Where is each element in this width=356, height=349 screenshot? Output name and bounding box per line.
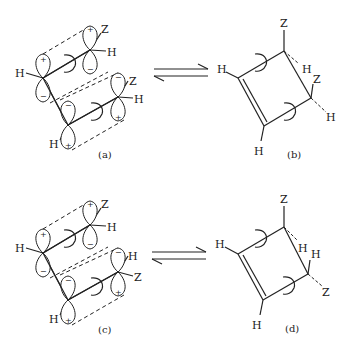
bond-z [311, 84, 313, 98]
panel-caption: (c) [98, 324, 112, 335]
diagram-canvas: + − + − − + − + H Z H Z H H (a) [0, 0, 356, 349]
sign: + [65, 316, 72, 325]
sign: + [115, 113, 122, 122]
atom-label: H [326, 111, 336, 124]
sign: + [40, 55, 47, 64]
atom-label: H [254, 145, 264, 158]
sign: + [115, 288, 122, 297]
atom-label: H [15, 67, 25, 80]
atom-label: H [128, 250, 138, 263]
sign: + [40, 230, 47, 239]
atom-label: Z [129, 75, 137, 88]
atom-label: H [302, 63, 312, 76]
sign: + [87, 25, 94, 34]
atom-label: H [217, 63, 227, 76]
sign: − [115, 248, 122, 257]
sign: + [87, 200, 94, 209]
bond-h-dashed [311, 98, 326, 112]
double-bond [238, 78, 264, 126]
panel-caption: (b) [287, 149, 301, 160]
sign: + [65, 141, 72, 150]
atom-label: Z [280, 193, 288, 206]
atom-label: H [15, 242, 25, 255]
atom-label: H [107, 46, 117, 59]
bond-h [261, 126, 264, 141]
overlap-dash [60, 73, 118, 100]
atom-label: Z [101, 23, 109, 36]
atom-label: H [134, 93, 144, 106]
bond [264, 98, 311, 126]
overlap-dash [50, 72, 108, 103]
overlap-dash [43, 26, 90, 54]
sign: − [87, 240, 94, 249]
equilibrium-arrow-icon [154, 64, 208, 81]
panel-b: H H Z H Z H (b) [217, 17, 336, 160]
atom-label: H [252, 319, 262, 332]
double-bond [243, 79, 267, 122]
sign: − [65, 276, 72, 285]
atom-label: Z [280, 17, 288, 30]
atom-label: H [49, 313, 59, 326]
atom-label: Z [313, 73, 321, 86]
panel-a: + − + − − + − + H Z H Z H H (a) [15, 23, 144, 160]
equilibrium-arrow-icon [152, 247, 206, 264]
atom-label: H [311, 248, 321, 261]
atom-label: Z [134, 271, 142, 284]
bond-h [118, 97, 133, 98]
panel-d: H H Z H H Z (d) [215, 193, 330, 334]
atom-label: H [215, 238, 225, 251]
atom-label: Z [322, 286, 330, 299]
sign: − [65, 101, 72, 110]
panel-caption: (d) [285, 323, 299, 334]
bond-h-dashed [284, 51, 298, 63]
rotation-arrow-icon [284, 103, 296, 120]
overlap-dash [72, 120, 124, 150]
atom-label: Z [101, 198, 109, 211]
panel-caption: (a) [98, 149, 112, 160]
rotation-arrow-icon [64, 55, 76, 72]
bond-h [226, 72, 238, 78]
sign: − [40, 92, 47, 101]
panel-c: + − + − − + − + H Z H H Z H (c) [15, 198, 142, 335]
atom-label: H [107, 221, 117, 234]
atom-label: H [298, 242, 308, 255]
sign: − [40, 267, 47, 276]
sign: − [115, 73, 122, 82]
sign: − [87, 65, 94, 74]
atom-label: H [49, 138, 59, 151]
bond-h [90, 50, 106, 51]
rotation-arrow-icon [64, 230, 76, 247]
